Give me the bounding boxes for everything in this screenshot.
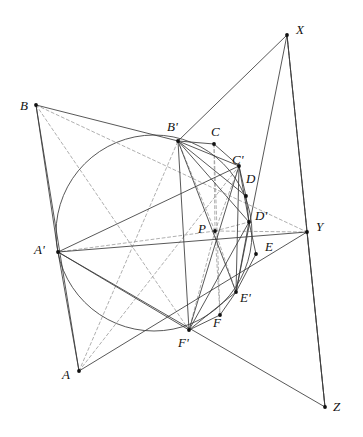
segment-Bp-X bbox=[178, 35, 287, 141]
point-marker-A bbox=[77, 369, 81, 373]
segment-X-Y bbox=[287, 35, 307, 232]
point-marker-P bbox=[213, 229, 217, 233]
point-marker-Ap bbox=[56, 250, 60, 254]
segment-Ap-B bbox=[36, 105, 58, 252]
point-marker-Fp bbox=[187, 328, 191, 332]
point-marker-Bp bbox=[176, 139, 180, 143]
segment-P-Dp bbox=[215, 222, 249, 231]
point-label-Y: Y bbox=[316, 220, 323, 233]
point-marker-Z bbox=[323, 405, 327, 409]
point-marker-D bbox=[244, 194, 248, 198]
segment-Cp-Fp bbox=[189, 166, 239, 330]
point-label-F: F bbox=[213, 316, 221, 329]
segment-P-Y bbox=[215, 231, 307, 232]
segment-Cp-Ep bbox=[236, 166, 239, 292]
point-markers-layer bbox=[34, 33, 327, 409]
point-label-C: C bbox=[211, 125, 220, 138]
point-label-E: E bbox=[265, 240, 273, 253]
point-label-Bp: B' bbox=[167, 120, 178, 133]
circle-layer bbox=[56, 135, 252, 331]
dashed-lines-layer bbox=[36, 35, 325, 407]
point-marker-B bbox=[34, 103, 38, 107]
point-label-X: X bbox=[296, 23, 304, 36]
point-label-Fp: F' bbox=[178, 336, 189, 349]
segment-Ap-Cp bbox=[58, 166, 239, 252]
segment-Ap-Z bbox=[58, 252, 325, 407]
point-marker-E bbox=[254, 252, 258, 256]
point-marker-X bbox=[285, 33, 289, 37]
segment-P-Fp bbox=[189, 231, 215, 330]
segment-B-Fp bbox=[36, 105, 189, 330]
point-marker-Dp bbox=[247, 220, 251, 224]
point-label-Cp: C' bbox=[232, 153, 243, 166]
segment-Ap-Fp bbox=[58, 252, 189, 330]
main-circle bbox=[56, 135, 252, 331]
point-label-Dp: D' bbox=[255, 209, 267, 222]
point-label-Ap: A' bbox=[34, 243, 45, 256]
geometry-figure: ABA'B'CC'DD'EE'FF'PXYZ bbox=[0, 0, 363, 437]
geometry-canvas bbox=[0, 0, 363, 437]
point-label-B: B bbox=[20, 99, 28, 112]
point-marker-Y bbox=[305, 230, 309, 234]
segment-X-Ep bbox=[236, 35, 287, 292]
point-marker-Ep bbox=[234, 290, 238, 294]
point-marker-C bbox=[212, 142, 216, 146]
segment-Dp-E bbox=[249, 222, 256, 254]
point-label-A: A bbox=[62, 368, 70, 381]
point-label-D: D bbox=[246, 172, 255, 185]
segment-A-Bp bbox=[79, 141, 178, 371]
segment-A-Ap bbox=[58, 252, 79, 371]
point-label-P: P bbox=[198, 222, 206, 235]
segment-B-Bp bbox=[36, 105, 178, 141]
point-label-Z: Z bbox=[333, 400, 340, 413]
segment-Bp-Ep bbox=[178, 141, 236, 292]
solid-lines-layer bbox=[36, 35, 325, 407]
point-label-Ep: E' bbox=[240, 291, 251, 304]
segment-B-A bbox=[36, 105, 79, 371]
segment-Y-Z bbox=[307, 232, 325, 407]
